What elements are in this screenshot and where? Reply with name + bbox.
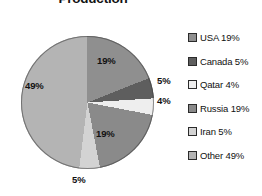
slice-label-canada: 5% — [157, 75, 171, 86]
legend-label-usa: USA 19% — [200, 32, 240, 43]
slice-label-other: 49% — [25, 80, 44, 91]
legend-swatch-russia — [188, 104, 197, 113]
chart-title: Production — [0, 0, 186, 6]
legend-swatch-iran — [188, 127, 197, 136]
slice-label-iran: 5% — [72, 174, 86, 185]
legend-item-qatar[interactable]: Qatar 4% — [188, 73, 262, 97]
legend-item-russia[interactable]: Russia 19% — [188, 97, 262, 121]
slice-label-russia: 19% — [96, 128, 115, 139]
legend-item-canada[interactable]: Canada 5% — [188, 50, 262, 74]
legend-swatch-usa — [188, 33, 197, 42]
legend-label-russia: Russia 19% — [200, 103, 249, 114]
legend-item-usa[interactable]: USA 19% — [188, 26, 262, 50]
legend-swatch-other — [188, 151, 197, 160]
legend-label-other: Other 49% — [200, 150, 244, 161]
legend-item-other[interactable]: Other 49% — [188, 144, 262, 168]
legend-label-canada: Canada 5% — [200, 56, 248, 67]
legend-label-iran: Iran 5% — [200, 126, 232, 137]
chart-legend: USA 19% Canada 5% Qatar 4% Russia 19% Ir… — [188, 26, 262, 167]
slice-label-usa: 19% — [97, 55, 116, 66]
slice-label-qatar: 4% — [157, 95, 171, 106]
pie-chart-figure: Production 19% 5% 4% 19% 5% 49% USA 19% … — [0, 0, 262, 196]
legend-label-qatar: Qatar 4% — [200, 79, 239, 90]
legend-swatch-qatar — [188, 80, 197, 89]
pie-plot-area — [21, 36, 154, 169]
legend-item-iran[interactable]: Iran 5% — [188, 120, 262, 144]
legend-swatch-canada — [188, 57, 197, 66]
pie-slice-other[interactable] — [21, 36, 154, 169]
bottom-caption: Gold Network — [1, 195, 49, 196]
